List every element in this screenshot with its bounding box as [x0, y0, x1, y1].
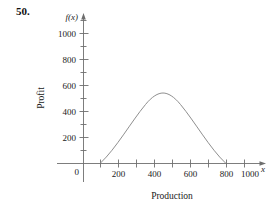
- y-tick-label-1000: 1000: [58, 29, 77, 39]
- x-tick-label-400: 400: [148, 169, 162, 179]
- origin-label: 0: [75, 167, 80, 177]
- y-axis-major-ticks: [80, 34, 89, 138]
- profit-curve: [101, 93, 226, 163]
- x-tick-label-600: 600: [184, 169, 198, 179]
- x-tick-label-200: 200: [112, 169, 126, 179]
- x-axis-title: Production: [151, 191, 193, 201]
- x-axis-variable-label: x: [260, 164, 265, 174]
- y-axis-title: Profit: [36, 87, 46, 109]
- x-tick-label-800: 800: [220, 169, 234, 179]
- y-tick-label-600: 600: [63, 81, 77, 91]
- y-tick-label-800: 800: [63, 55, 77, 65]
- y-axis-arrow-icon: [81, 13, 86, 20]
- figure-container: 50.: [0, 0, 276, 210]
- y-tick-label-400: 400: [63, 107, 77, 117]
- y-axis-function-label: f(x): [66, 12, 79, 22]
- x-tick-label-1000: 1000: [241, 169, 260, 179]
- profit-production-chart: 1000 800 600 400 200 0 200 400 600 800 1…: [0, 0, 276, 210]
- y-tick-label-200: 200: [63, 133, 77, 143]
